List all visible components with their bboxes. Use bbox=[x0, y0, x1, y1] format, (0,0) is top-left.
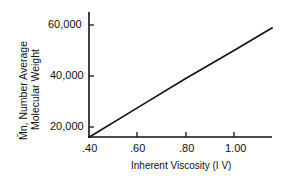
x-tick-label: 1.00 bbox=[225, 143, 246, 154]
x-tick-label: .40 bbox=[82, 143, 97, 154]
x-axis-title: Inherent Viscosity (I V) bbox=[131, 160, 231, 171]
y-axis-title-line2: Molecular Weight bbox=[29, 49, 41, 130]
chart-plot bbox=[0, 0, 285, 182]
chart-figure: 60,000 40,000 20,000 .40 .60 .80 1.00 In… bbox=[0, 0, 285, 182]
y-tick-label: 20,000 bbox=[50, 121, 84, 132]
x-tick-label: .80 bbox=[179, 143, 194, 154]
y-tick-label: 60,000 bbox=[48, 19, 82, 30]
y-axis-title-line1: M̄n, Number Average bbox=[17, 41, 29, 140]
data-line bbox=[89, 28, 273, 138]
x-tick-label: .60 bbox=[130, 143, 145, 154]
y-tick-label: 40,000 bbox=[50, 70, 84, 81]
